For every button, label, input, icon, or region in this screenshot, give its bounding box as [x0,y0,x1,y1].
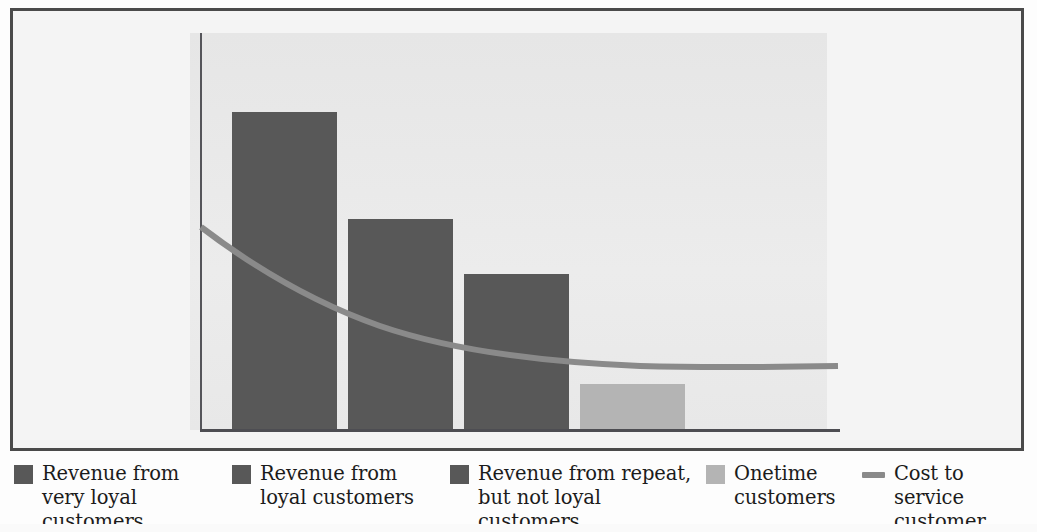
legend-item-very-loyal[interactable]: Revenue from very loyal customers [14,462,214,532]
page-bottom-edge [0,524,1037,532]
figure-root: Revenue from very loyal customers Revenu… [0,0,1037,532]
bar-very-loyal [232,112,337,430]
legend-label-onetime: Onetime customers [734,462,846,510]
legend-item-repeat-not-loyal[interactable]: Revenue from repeat, but not loyal custo… [450,462,705,532]
legend-swatch-square-icon [706,465,725,484]
bar-repeat-not-loyal [464,274,569,430]
legend-item-loyal[interactable]: Revenue from loyal customers [232,462,442,510]
legend-swatch-square-icon [14,465,33,484]
bar-onetime [580,384,685,430]
legend-swatch-line-icon [862,472,885,478]
legend-label-loyal: Revenue from loyal customers [260,462,442,510]
legend-label-repeat-not-loyal: Revenue from repeat, but not loyal custo… [478,462,705,532]
legend-item-cost-to-service[interactable]: Cost to service customer [862,462,1037,532]
legend-swatch-square-icon [232,465,251,484]
legend-label-cost-to-service: Cost to service customer [894,462,1037,532]
bars-layer [0,0,1037,430]
legend-swatch-square-icon [450,465,469,484]
legend-label-very-loyal: Revenue from very loyal customers [42,462,214,532]
chart-legend: Revenue from very loyal customers Revenu… [10,462,1030,524]
x-axis-line [200,429,840,432]
bar-loyal [348,219,453,430]
legend-item-onetime[interactable]: Onetime customers [706,462,846,510]
